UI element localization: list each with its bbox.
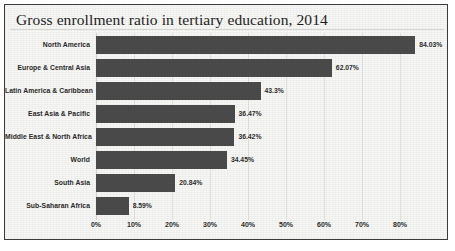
plot-area: North America84.03%Europe & Central Asia… xyxy=(5,31,449,239)
category-label: World xyxy=(5,148,90,171)
bar-row: Middle East & North Africa36.42% xyxy=(5,125,449,148)
chart-title: Gross enrollment ratio in tertiary educa… xyxy=(16,11,328,29)
bar-value-label: 43.3% xyxy=(265,79,284,102)
x-tick-label: 50% xyxy=(279,221,293,228)
bar xyxy=(96,105,235,123)
bar-value-label: 84.03% xyxy=(419,33,442,56)
category-label: Europe & Central Asia xyxy=(5,56,90,79)
x-tick-label: 30% xyxy=(203,221,217,228)
bar-row: Sub-Saharan Africa8.59% xyxy=(5,194,449,217)
bar xyxy=(96,59,332,77)
chart-figure: Gross enrollment ratio in tertiary educa… xyxy=(4,4,448,240)
bar-value-label: 8.59% xyxy=(133,194,152,217)
bar-value-label: 62.07% xyxy=(336,56,359,79)
bar xyxy=(96,197,129,215)
bar-row: South Asia20.84% xyxy=(5,171,449,194)
bar-value-label: 36.42% xyxy=(238,125,261,148)
category-label: East Asia & Pacific xyxy=(5,102,90,125)
category-label: North America xyxy=(5,33,90,56)
bar-value-label: 20.84% xyxy=(179,171,202,194)
category-label: Latin America & Caribbean xyxy=(5,79,90,102)
bar xyxy=(96,128,234,146)
title-divider xyxy=(10,29,444,30)
category-label: Middle East & North Africa xyxy=(5,125,90,148)
x-tick-label: 80% xyxy=(393,221,407,228)
category-label: Sub-Saharan Africa xyxy=(5,194,90,217)
bar-row: Latin America & Caribbean43.3% xyxy=(5,79,449,102)
bar xyxy=(96,36,415,54)
x-tick-label: 20% xyxy=(165,221,179,228)
bar xyxy=(96,174,175,192)
bar-row: World34.45% xyxy=(5,148,449,171)
bar-row: East Asia & Pacific36.47% xyxy=(5,102,449,125)
bar xyxy=(96,151,227,169)
x-tick-label: 0% xyxy=(91,221,101,228)
bar-row: North America84.03% xyxy=(5,33,449,56)
x-tick-label: 10% xyxy=(127,221,141,228)
x-tick-label: 70% xyxy=(355,221,369,228)
category-label: South Asia xyxy=(5,171,90,194)
x-tick-label: 60% xyxy=(317,221,331,228)
x-tick-label: 40% xyxy=(241,221,255,228)
bar-value-label: 34.45% xyxy=(231,148,254,171)
bar xyxy=(96,82,261,100)
bar-row: Europe & Central Asia62.07% xyxy=(5,56,449,79)
bar-value-label: 36.47% xyxy=(239,102,262,125)
